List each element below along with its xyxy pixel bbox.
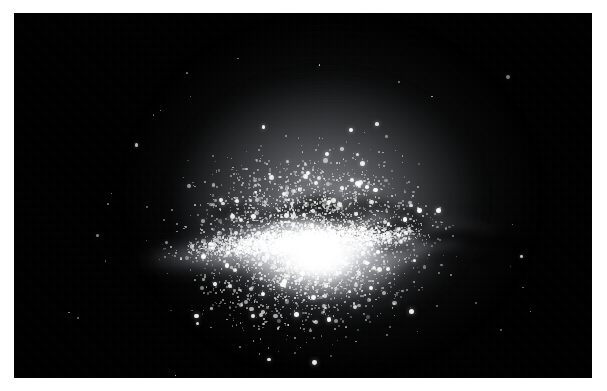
galaxy-photograph	[14, 13, 592, 378]
screenshot-canvas: Grayscale astronomical photograph of an …	[0, 0, 607, 391]
